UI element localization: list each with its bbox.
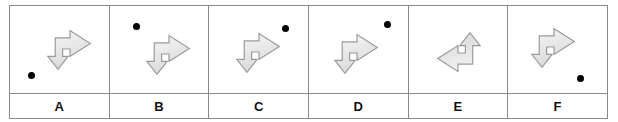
label-row: ABCDEF — [10, 93, 607, 118]
panel-cell-d[interactable] — [309, 6, 409, 93]
panel-label-f[interactable]: F — [508, 94, 607, 118]
panel-label-a[interactable]: A — [10, 94, 110, 118]
bent-arrow-right-down — [143, 30, 195, 78]
panel-cell-c[interactable] — [209, 6, 309, 93]
bent-arrow-right-down — [528, 23, 580, 71]
bent-arrow-up-right — [432, 29, 484, 77]
panel-label-e[interactable]: E — [409, 94, 509, 118]
panel-cell-b[interactable] — [110, 6, 210, 93]
panel-row — [10, 6, 607, 93]
bent-arrow-right-down — [233, 28, 285, 76]
reference-dot — [384, 21, 391, 28]
panel-label-c[interactable]: C — [209, 94, 309, 118]
reference-dot — [577, 75, 584, 82]
bent-arrow-right-down — [331, 29, 383, 77]
panel-label-d[interactable]: D — [309, 94, 409, 118]
answer-options-figure: ABCDEF — [9, 5, 608, 119]
reference-dot — [282, 25, 289, 32]
reference-dot — [133, 23, 140, 30]
panel-cell-e[interactable] — [409, 6, 509, 93]
reference-dot — [28, 72, 35, 79]
panel-label-b[interactable]: B — [110, 94, 210, 118]
panel-cell-a[interactable] — [10, 6, 110, 93]
panel-cell-f[interactable] — [508, 6, 607, 93]
bent-arrow-right-down — [44, 25, 96, 73]
